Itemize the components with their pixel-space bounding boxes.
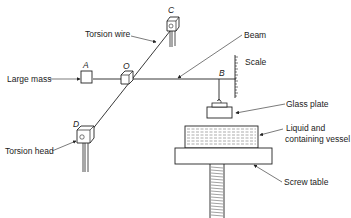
callout-torsion-wire: Torsion wire: [85, 29, 131, 39]
callout-torsion-head: Torsion head: [5, 146, 54, 156]
scale: [235, 55, 238, 98]
callout-scale: Scale: [245, 57, 267, 67]
torsion-head-d: [77, 126, 94, 172]
label-c: C: [168, 5, 175, 15]
callout-liquid-line1: Liquid and: [286, 123, 326, 133]
pivot-block-o: [121, 71, 133, 84]
callout-large-mass: Large mass: [7, 74, 51, 84]
label-d: D: [73, 119, 79, 129]
callout-glass-plate: Glass plate: [286, 99, 329, 109]
label-b: B: [219, 68, 225, 78]
callout-beam: Beam: [244, 30, 266, 40]
screw-table-top: [175, 148, 272, 164]
glass-plate: [207, 103, 232, 118]
callout-liquid-line2: containing vessel: [285, 134, 350, 144]
large-mass-block: [81, 71, 92, 83]
label-a: A: [82, 60, 89, 70]
label-o: O: [123, 61, 130, 71]
apparatus-diagram: C A O B D Torsion wire Beam Large mass S…: [0, 0, 351, 218]
liquid-vessel: [185, 126, 258, 148]
callout-screw-table: Screw table: [284, 177, 329, 187]
screw-shaft: [210, 164, 224, 218]
